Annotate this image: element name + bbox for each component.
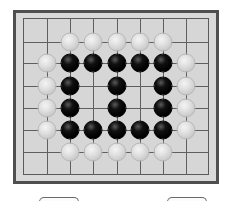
black-stone[interactable] <box>61 77 80 96</box>
black-stone[interactable] <box>131 121 150 140</box>
white-stone[interactable] <box>131 33 150 52</box>
grid-column-line <box>47 18 48 175</box>
white-stone[interactable] <box>177 77 196 96</box>
white-stone[interactable] <box>84 143 103 162</box>
white-stone[interactable] <box>154 33 173 52</box>
black-stone[interactable] <box>61 54 80 73</box>
white-stone[interactable] <box>177 121 196 140</box>
white-stone[interactable] <box>38 121 57 140</box>
game-stage <box>0 0 230 201</box>
left-button[interactable] <box>39 197 79 201</box>
white-stone[interactable] <box>177 99 196 118</box>
black-stone[interactable] <box>108 121 127 140</box>
black-stone[interactable] <box>108 99 127 118</box>
black-stone[interactable] <box>131 54 150 73</box>
white-stone[interactable] <box>61 33 80 52</box>
black-stone[interactable] <box>154 77 173 96</box>
white-stone[interactable] <box>38 99 57 118</box>
white-stone[interactable] <box>108 33 127 52</box>
black-stone[interactable] <box>84 54 103 73</box>
white-stone[interactable] <box>84 33 103 52</box>
black-stone[interactable] <box>61 99 80 118</box>
white-stone[interactable] <box>154 143 173 162</box>
white-stone[interactable] <box>61 143 80 162</box>
white-stone[interactable] <box>131 143 150 162</box>
white-stone[interactable] <box>108 143 127 162</box>
black-stone[interactable] <box>154 99 173 118</box>
grid-column-line <box>186 18 187 175</box>
black-stone[interactable] <box>61 121 80 140</box>
black-stone[interactable] <box>108 77 127 96</box>
black-stone[interactable] <box>154 121 173 140</box>
black-stone[interactable] <box>154 54 173 73</box>
black-stone[interactable] <box>84 121 103 140</box>
right-button[interactable] <box>167 197 207 201</box>
black-stone[interactable] <box>108 54 127 73</box>
white-stone[interactable] <box>38 77 57 96</box>
white-stone[interactable] <box>38 54 57 73</box>
white-stone[interactable] <box>177 54 196 73</box>
